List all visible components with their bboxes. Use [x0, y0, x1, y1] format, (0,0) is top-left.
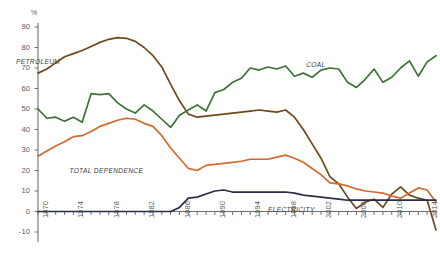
y-tick-label: 30 — [8, 145, 30, 154]
x-tick-label: 2014 — [430, 200, 439, 217]
x-tick-label: 1982 — [147, 200, 156, 217]
series-label-electricity: ELECTRICITY — [268, 206, 315, 213]
series-line-electricity — [38, 190, 436, 212]
x-tick-label: 1994 — [253, 200, 262, 217]
x-tick-label: 1974 — [76, 200, 85, 217]
y-tick-label: 80 — [8, 43, 30, 52]
series-line-petroleum — [38, 38, 436, 230]
chart-container: % -100102030405060708090 197019741978198… — [0, 0, 440, 266]
y-tick-label: 0 — [8, 207, 30, 216]
series-label-petroleum: PETROLEUM — [16, 58, 60, 65]
x-tick-label: 1986 — [183, 200, 192, 217]
y-tick-label: -10 — [8, 227, 30, 236]
x-tick-label: 2010 — [395, 200, 404, 217]
series-label-coal: COAL — [306, 61, 325, 68]
series-label-total-dependence: TOTAL DEPENDENCE — [69, 167, 143, 174]
series-line-coal — [38, 56, 436, 128]
y-tick-label: 40 — [8, 125, 30, 134]
x-tick-label: 1970 — [41, 200, 50, 217]
x-tick-label: 2002 — [324, 200, 333, 217]
y-tick-label: 60 — [8, 84, 30, 93]
series-line-total-dependence — [38, 118, 436, 202]
y-tick-label: 90 — [8, 22, 30, 31]
x-tick-label: 2006 — [359, 200, 368, 217]
y-tick-label: 50 — [8, 104, 30, 113]
x-tick-label: 1978 — [112, 200, 121, 217]
x-tick-label: 1990 — [218, 200, 227, 217]
y-tick-label: 10 — [8, 186, 30, 195]
line-chart-plot — [0, 0, 440, 266]
y-tick-label: 20 — [8, 166, 30, 175]
